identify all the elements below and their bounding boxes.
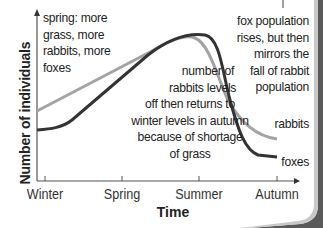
annotation-line: population bbox=[210, 79, 309, 96]
annotation-line: rabbits, more bbox=[43, 43, 110, 60]
tick-label-winter: Winter bbox=[14, 186, 77, 202]
population-chart: Number of individuals Winter Spring Summ… bbox=[0, 0, 323, 228]
annotation-line: foxes bbox=[43, 60, 110, 77]
annotation-line: winter levels in autumn bbox=[118, 113, 262, 130]
tick-label-spring: Spring bbox=[91, 186, 154, 202]
x-axis-label: Time bbox=[143, 204, 203, 220]
series-label-rabbits: rabbits bbox=[255, 116, 309, 133]
annotation-line: fox population bbox=[210, 13, 309, 30]
y-axis-arrow-icon bbox=[34, 9, 40, 16]
annotation-line: mirrors the bbox=[210, 46, 309, 63]
annotation-line: because of shortage bbox=[118, 129, 262, 146]
annotation-spring: spring: more grass, more rabbits, more f… bbox=[43, 10, 110, 76]
tick-label-summer: Summer bbox=[168, 186, 231, 202]
y-axis-label: Number of individuals bbox=[17, 38, 33, 188]
annotation-line: fall of rabbit bbox=[210, 63, 309, 80]
annotation-line: rises, but then bbox=[210, 30, 309, 47]
annotation-fox: fox population rises, but then mirrors t… bbox=[210, 13, 309, 96]
annotation-line: grass, more bbox=[43, 27, 110, 44]
series-label-foxes: foxes bbox=[255, 154, 309, 171]
tick-label-autumn: Autumn bbox=[246, 186, 309, 202]
x-axis-arrow-icon bbox=[294, 178, 300, 184]
annotation-line: of grass bbox=[118, 146, 262, 163]
annotation-line: off then returns to bbox=[118, 96, 262, 113]
annotation-line: spring: more bbox=[43, 10, 110, 27]
